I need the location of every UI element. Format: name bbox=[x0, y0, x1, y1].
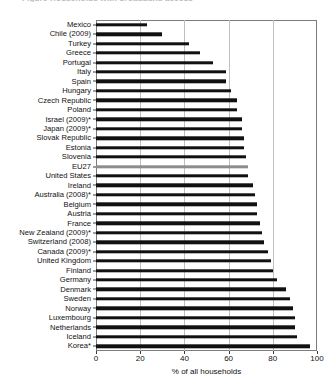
bar-row bbox=[96, 200, 317, 209]
x-tick-label-60: 60 bbox=[224, 354, 233, 363]
bar bbox=[96, 155, 246, 158]
y-axis-label: Luxembourg bbox=[0, 313, 93, 322]
x-axis-title: % of all households bbox=[96, 367, 317, 376]
y-axis-label: Slovak Republic bbox=[0, 133, 93, 142]
bar bbox=[96, 32, 162, 35]
bar-row bbox=[96, 96, 317, 105]
bar-row bbox=[96, 323, 317, 332]
bar-row bbox=[96, 181, 317, 190]
y-axis-label: Italy bbox=[0, 67, 93, 76]
bar bbox=[96, 344, 310, 347]
bar bbox=[96, 316, 295, 319]
bar-row bbox=[96, 162, 317, 171]
bar-row bbox=[96, 133, 317, 142]
bar bbox=[96, 259, 271, 262]
y-axis-label: Mexico bbox=[0, 20, 93, 29]
bar-row bbox=[96, 77, 317, 86]
bar bbox=[96, 222, 260, 225]
y-axis-label: Netherlands bbox=[0, 323, 93, 332]
y-axis-label: Sweden bbox=[0, 294, 93, 303]
figure-caption: Figure Households with broadband access bbox=[22, 0, 322, 2]
bars-container bbox=[96, 20, 317, 351]
bar-row bbox=[96, 152, 317, 161]
bar bbox=[96, 193, 255, 196]
bar-row bbox=[96, 275, 317, 284]
bar-row bbox=[96, 313, 317, 322]
y-axis-label: France bbox=[0, 219, 93, 228]
y-axis-label: Finland bbox=[0, 266, 93, 275]
bar bbox=[96, 212, 257, 215]
bar bbox=[96, 42, 189, 45]
bar-row bbox=[96, 219, 317, 228]
chart-figure: Figure Households with broadband access … bbox=[0, 0, 332, 388]
y-axis-label: New Zealand (2009)* bbox=[0, 228, 93, 237]
bar-row bbox=[96, 105, 317, 114]
y-axis-label: Israel (2009)* bbox=[0, 115, 93, 124]
bar-row bbox=[96, 285, 317, 294]
bar-row bbox=[96, 341, 317, 350]
bar-row bbox=[96, 29, 317, 38]
plot-area bbox=[96, 20, 317, 351]
bar-row bbox=[96, 143, 317, 152]
bar bbox=[96, 297, 290, 300]
bar-row bbox=[96, 247, 317, 256]
bar bbox=[96, 80, 226, 83]
y-axis-label: Switzerland (2008) bbox=[0, 237, 93, 246]
bar bbox=[96, 335, 297, 338]
bar bbox=[96, 70, 226, 73]
x-axis-tick-labels: 020406080100 bbox=[96, 354, 317, 366]
bar-row bbox=[96, 39, 317, 48]
bar bbox=[96, 146, 244, 149]
x-tick-label-80: 80 bbox=[268, 354, 277, 363]
bar-row bbox=[96, 58, 317, 67]
bar bbox=[96, 231, 262, 234]
y-axis-label: Austria bbox=[0, 209, 93, 218]
bar-row bbox=[96, 115, 317, 124]
bar bbox=[96, 184, 253, 187]
bar-row bbox=[96, 209, 317, 218]
y-axis-label: EU27 bbox=[0, 162, 93, 171]
bar bbox=[96, 127, 242, 130]
bar bbox=[96, 108, 237, 111]
y-axis-label: Ireland bbox=[0, 181, 93, 190]
y-axis-label: Hungary bbox=[0, 86, 93, 95]
x-tick-label-40: 40 bbox=[180, 354, 189, 363]
y-axis-label: Germany bbox=[0, 275, 93, 284]
bar-row bbox=[96, 86, 317, 95]
y-axis-label: Estonia bbox=[0, 143, 93, 152]
bar bbox=[96, 250, 268, 253]
bar bbox=[96, 23, 147, 26]
bar-row bbox=[96, 171, 317, 180]
bar-row bbox=[96, 294, 317, 303]
y-axis-label: Denmark bbox=[0, 285, 93, 294]
y-axis-label: Belgium bbox=[0, 200, 93, 209]
x-tick-label-100: 100 bbox=[310, 354, 323, 363]
bar bbox=[96, 269, 273, 272]
bar-row bbox=[96, 20, 317, 29]
y-axis-label: Korea* bbox=[0, 341, 93, 350]
y-axis-label: Canada (2009)* bbox=[0, 247, 93, 256]
bar bbox=[96, 240, 264, 243]
bar-row bbox=[96, 304, 317, 313]
bar-row bbox=[96, 67, 317, 76]
bar bbox=[96, 136, 244, 139]
y-axis-label: Japan (2009)* bbox=[0, 124, 93, 133]
bar-row bbox=[96, 124, 317, 133]
y-axis-label: Iceland bbox=[0, 332, 93, 341]
y-axis-label: Chile (2009) bbox=[0, 29, 93, 38]
y-axis-label: Greece bbox=[0, 48, 93, 57]
bar bbox=[96, 288, 286, 291]
x-tick-label-20: 20 bbox=[136, 354, 145, 363]
y-axis-label: United Kingdom bbox=[0, 256, 93, 265]
bar bbox=[96, 307, 293, 310]
y-axis-label: United States bbox=[0, 171, 93, 180]
bar-row bbox=[96, 48, 317, 57]
bar bbox=[96, 51, 200, 54]
y-axis-label: Spain bbox=[0, 77, 93, 86]
bar bbox=[96, 118, 242, 121]
bar-row bbox=[96, 228, 317, 237]
y-axis-label: Portugal bbox=[0, 58, 93, 67]
y-axis-labels: MexicoChile (2009)TurkeyGreecePortugalIt… bbox=[0, 20, 93, 351]
bar bbox=[96, 165, 248, 168]
bar bbox=[96, 203, 257, 206]
